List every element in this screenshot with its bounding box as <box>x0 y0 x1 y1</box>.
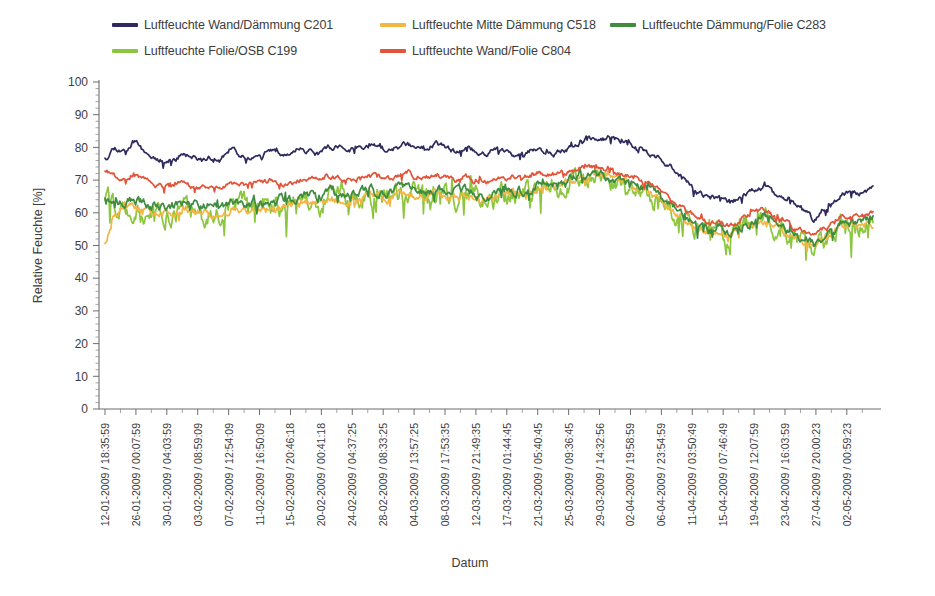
x-tick-label: 26-01-2009 / 00:07:59 <box>130 423 142 526</box>
x-tick-label: 02-05-2009 / 00:59:23 <box>841 423 853 526</box>
y-axis-title: Relative Feuchte [%] <box>31 188 45 303</box>
x-axis-title: Datum <box>452 556 489 570</box>
x-tick-label: 30-01-2009 / 04:03:59 <box>161 423 173 526</box>
y-tick-label: 10 <box>75 370 89 384</box>
y-tick-label: 50 <box>75 239 89 253</box>
x-tick-label: 15-02-2009 / 20:46:18 <box>284 423 296 526</box>
x-tick-label: 29-03-2009 / 14:32:56 <box>594 423 606 526</box>
y-tick-label: 20 <box>75 337 89 351</box>
x-tick-label: 19-04-2009 / 12:07:59 <box>748 423 760 526</box>
y-tick-label: 60 <box>75 206 89 220</box>
x-tick-label: 28-02-2009 / 08:33:25 <box>377 423 389 526</box>
series-line <box>105 169 873 246</box>
x-tick-label: 06-04-2009 / 23:54:59 <box>655 423 667 526</box>
x-tick-label: 02-04-2009 / 19:58:59 <box>624 423 636 526</box>
x-tick-label: 03-02-2009 / 08:59:09 <box>192 423 204 526</box>
chart-svg: 010203040506070809010012-01-2009 / 18:35… <box>0 0 935 596</box>
x-tick-label: 15-04-2009 / 07:46:49 <box>717 423 729 526</box>
y-tick-label: 30 <box>75 304 89 318</box>
x-tick-label: 25-03-2009 / 09:36:45 <box>563 423 575 526</box>
x-tick-label: 12-01-2009 / 18:35:59 <box>99 423 111 526</box>
y-tick-label: 70 <box>75 173 89 187</box>
y-tick-label: 100 <box>68 75 88 89</box>
series-line <box>105 136 873 222</box>
y-tick-label: 80 <box>75 141 89 155</box>
x-tick-label: 11-02-2009 / 16:50:09 <box>254 423 266 526</box>
x-tick-label: 12-03-2009 / 21:49:35 <box>470 423 482 526</box>
x-tick-label: 04-03-2009 / 13:57:25 <box>408 423 420 526</box>
x-tick-label: 17-03-2009 / 01:44:45 <box>501 423 513 526</box>
y-tick-label: 90 <box>75 108 89 122</box>
x-tick-label: 20-02-2009 / 00:41:18 <box>315 423 327 526</box>
y-tick-label: 40 <box>75 271 89 285</box>
x-tick-label: 27-04-2009 / 20:00:23 <box>810 423 822 526</box>
humidity-line-chart: 010203040506070809010012-01-2009 / 18:35… <box>0 0 935 596</box>
x-tick-label: 24-02-2009 / 04:37:25 <box>346 423 358 526</box>
x-tick-label: 11-04-2009 / 03:50:49 <box>686 423 698 526</box>
x-tick-label: 07-02-2009 / 12:54:09 <box>223 423 235 526</box>
x-tick-label: 21-03-2009 / 05:40:45 <box>532 423 544 526</box>
x-tick-label: 23-04-2009 / 16:03:59 <box>779 423 791 526</box>
chart-page: Luftfeuchte Wand/Dämmung C201Luftfeuchte… <box>0 0 935 596</box>
y-tick-label: 0 <box>81 402 88 416</box>
x-tick-label: 08-03-2009 / 17:53:35 <box>439 423 451 526</box>
